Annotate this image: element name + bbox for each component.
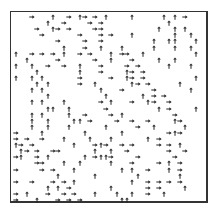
arrow-right-icon bbox=[166, 99, 172, 105]
arrow-up-icon bbox=[172, 26, 178, 32]
arrow-right-icon bbox=[45, 63, 51, 69]
arrow-right-icon bbox=[98, 69, 104, 75]
arrow-right-icon bbox=[124, 63, 130, 69]
arrow-up-icon bbox=[108, 136, 114, 142]
arrow-up-icon bbox=[71, 179, 77, 185]
arrow-right-icon bbox=[145, 81, 151, 87]
arrow-right-icon bbox=[98, 26, 104, 32]
arrow-right-icon bbox=[151, 99, 157, 105]
arrow-up-icon bbox=[71, 167, 77, 173]
arrow-right-icon bbox=[34, 148, 40, 154]
arrow-right-icon bbox=[66, 26, 72, 32]
arrow-right-icon bbox=[119, 87, 125, 93]
arrow-right-icon bbox=[98, 38, 104, 44]
arrow-up-icon bbox=[172, 38, 178, 44]
arrow-up-icon bbox=[13, 63, 19, 69]
arrow-up-icon bbox=[156, 57, 162, 63]
arrow-right-icon bbox=[156, 142, 162, 148]
arrow-right-icon bbox=[135, 154, 141, 160]
arrow-right-icon bbox=[61, 20, 67, 26]
arrow-right-icon bbox=[18, 142, 24, 148]
arrow-up-icon bbox=[129, 14, 135, 20]
arrow-up-icon bbox=[151, 124, 157, 130]
arrow-up-icon bbox=[156, 26, 162, 32]
arrow-right-icon bbox=[135, 63, 141, 69]
arrow-up-icon bbox=[24, 57, 30, 63]
arrow-right-icon bbox=[145, 191, 151, 197]
arrow-up-icon bbox=[13, 75, 19, 81]
arrow-up-icon bbox=[119, 167, 125, 173]
arrow-up-icon bbox=[39, 99, 45, 105]
arrow-right-icon bbox=[39, 136, 45, 142]
arrow-right-icon bbox=[129, 160, 135, 166]
arrow-right-icon bbox=[151, 93, 157, 99]
arrow-right-icon bbox=[55, 197, 61, 203]
arrow-right-icon bbox=[135, 124, 141, 130]
arrow-right-icon bbox=[145, 167, 151, 173]
arrow-up-icon bbox=[45, 81, 51, 87]
arrow-up-icon bbox=[39, 75, 45, 81]
arrow-right-icon bbox=[34, 26, 40, 32]
arrow-up-icon bbox=[119, 130, 125, 136]
arrow-right-icon bbox=[13, 179, 19, 185]
arrow-right-icon bbox=[140, 75, 146, 81]
arrow-up-icon bbox=[82, 130, 88, 136]
arrow-right-icon bbox=[77, 75, 83, 81]
arrow-up-icon bbox=[13, 51, 19, 57]
arrow-up-icon bbox=[77, 63, 83, 69]
arrow-up-icon bbox=[66, 112, 72, 118]
arrow-up-icon bbox=[55, 173, 61, 179]
arrow-up-icon bbox=[45, 20, 51, 26]
arrow-up-icon bbox=[124, 197, 130, 203]
arrow-up-icon bbox=[29, 118, 35, 124]
arrow-right-icon bbox=[55, 38, 61, 44]
arrow-right-icon bbox=[61, 179, 67, 185]
arrow-up-icon bbox=[108, 57, 114, 63]
arrow-up-icon bbox=[103, 14, 109, 20]
arrow-right-icon bbox=[98, 20, 104, 26]
arrow-right-icon bbox=[140, 69, 146, 75]
arrow-right-icon bbox=[13, 167, 19, 173]
arrow-up-icon bbox=[82, 154, 88, 160]
arrow-right-icon bbox=[166, 179, 172, 185]
arrow-right-icon bbox=[50, 167, 56, 173]
arrow-up-icon bbox=[39, 112, 45, 118]
arrow-up-icon bbox=[166, 167, 172, 173]
arrow-up-icon bbox=[129, 167, 135, 173]
arrow-right-icon bbox=[156, 185, 162, 191]
arrow-up-icon bbox=[177, 173, 183, 179]
arrow-up-icon bbox=[34, 197, 40, 203]
arrow-right-icon bbox=[39, 32, 45, 38]
arrow-right-icon bbox=[29, 51, 35, 57]
arrow-up-icon bbox=[61, 160, 67, 166]
arrow-right-icon bbox=[124, 51, 130, 57]
arrow-up-icon bbox=[129, 179, 135, 185]
arrow-up-icon bbox=[188, 32, 194, 38]
arrow-up-icon bbox=[166, 63, 172, 69]
arrow-up-icon bbox=[108, 99, 114, 105]
arrow-right-icon bbox=[13, 136, 19, 142]
arrow-right-icon bbox=[129, 142, 135, 148]
arrow-up-icon bbox=[61, 99, 67, 105]
arrow-up-icon bbox=[161, 14, 167, 20]
arrow-up-icon bbox=[108, 51, 114, 57]
arrow-right-icon bbox=[135, 81, 141, 87]
arrow-up-icon bbox=[119, 45, 125, 51]
arrow-up-icon bbox=[92, 81, 98, 87]
arrow-right-icon bbox=[66, 185, 72, 191]
arrow-right-icon bbox=[71, 191, 77, 197]
arrow-right-icon bbox=[77, 51, 83, 57]
arrow-right-icon bbox=[13, 130, 19, 136]
arrow-up-icon bbox=[61, 136, 67, 142]
arrow-right-icon bbox=[39, 167, 45, 173]
arrow-up-icon bbox=[182, 124, 188, 130]
arrow-right-icon bbox=[34, 154, 40, 160]
arrow-right-icon bbox=[92, 14, 98, 20]
arrow-up-icon bbox=[92, 191, 98, 197]
arrow-right-icon bbox=[124, 148, 130, 154]
arrow-up-icon bbox=[166, 20, 172, 26]
arrow-right-icon bbox=[108, 112, 114, 118]
arrow-up-icon bbox=[151, 45, 157, 51]
arrow-up-icon bbox=[77, 118, 83, 124]
arrow-up-icon bbox=[129, 32, 135, 38]
